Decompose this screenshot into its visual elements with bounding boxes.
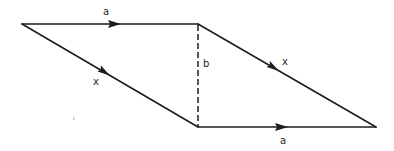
- edge-right-x: x: [198, 24, 376, 127]
- arrowhead-down-right-icon: [267, 61, 280, 71]
- edge-bottom-a: a: [198, 123, 376, 146]
- arrowhead-down-right-icon: [98, 65, 111, 75]
- edge-top-a: a: [22, 6, 198, 28]
- label-x-right: x: [282, 56, 288, 67]
- edge-middle-b: b: [198, 25, 209, 126]
- label-a-top: a: [103, 6, 109, 17]
- scan-artifact: [73, 117, 75, 120]
- edge-left-x: x: [22, 24, 198, 127]
- label-x-left: x: [93, 76, 99, 87]
- label-b: b: [203, 58, 209, 69]
- label-a-bottom: a: [280, 135, 286, 146]
- vector-parallelogram-diagram: a x b x a: [0, 0, 394, 151]
- right-edge-line: [198, 24, 376, 127]
